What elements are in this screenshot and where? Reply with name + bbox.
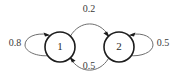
state-node-1: 1 xyxy=(45,32,75,62)
markov-chain-diagram: 0.2 0.5 0.8 0.5 1 2 xyxy=(0,0,176,79)
state-node-2: 2 xyxy=(104,32,134,62)
transition-2-to-1: 0.5 xyxy=(69,56,108,71)
transition-2-to-1-label: 0.5 xyxy=(83,60,96,71)
transition-1-to-2-label: 0.2 xyxy=(83,3,96,14)
transition-2-to-2: 0.5 xyxy=(129,33,170,56)
state-2-label: 2 xyxy=(116,40,122,52)
transition-1-to-2-path xyxy=(71,24,109,36)
transition-2-to-2-label: 0.5 xyxy=(157,37,170,48)
transition-1-to-1: 0.8 xyxy=(9,33,51,56)
diagram-canvas: 0.2 0.5 0.8 0.5 1 2 xyxy=(0,0,176,79)
state-1-label: 1 xyxy=(57,40,63,52)
transition-1-to-2: 0.2 xyxy=(71,3,110,37)
transition-1-to-1-label: 0.8 xyxy=(9,37,22,48)
